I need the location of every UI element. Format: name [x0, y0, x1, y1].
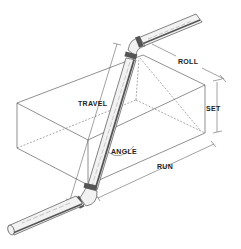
label-run: RUN — [157, 163, 173, 170]
top-pipe — [138, 14, 202, 46]
travel-pipe — [87, 58, 136, 190]
bottom-pipe — [6, 196, 84, 236]
label-set: SET — [206, 105, 221, 112]
label-roll: ROLL — [178, 58, 198, 65]
label-travel: TRAVEL — [78, 100, 107, 107]
rolling-offset-diagram — [0, 0, 241, 249]
label-angle: ANGLE — [111, 148, 137, 155]
